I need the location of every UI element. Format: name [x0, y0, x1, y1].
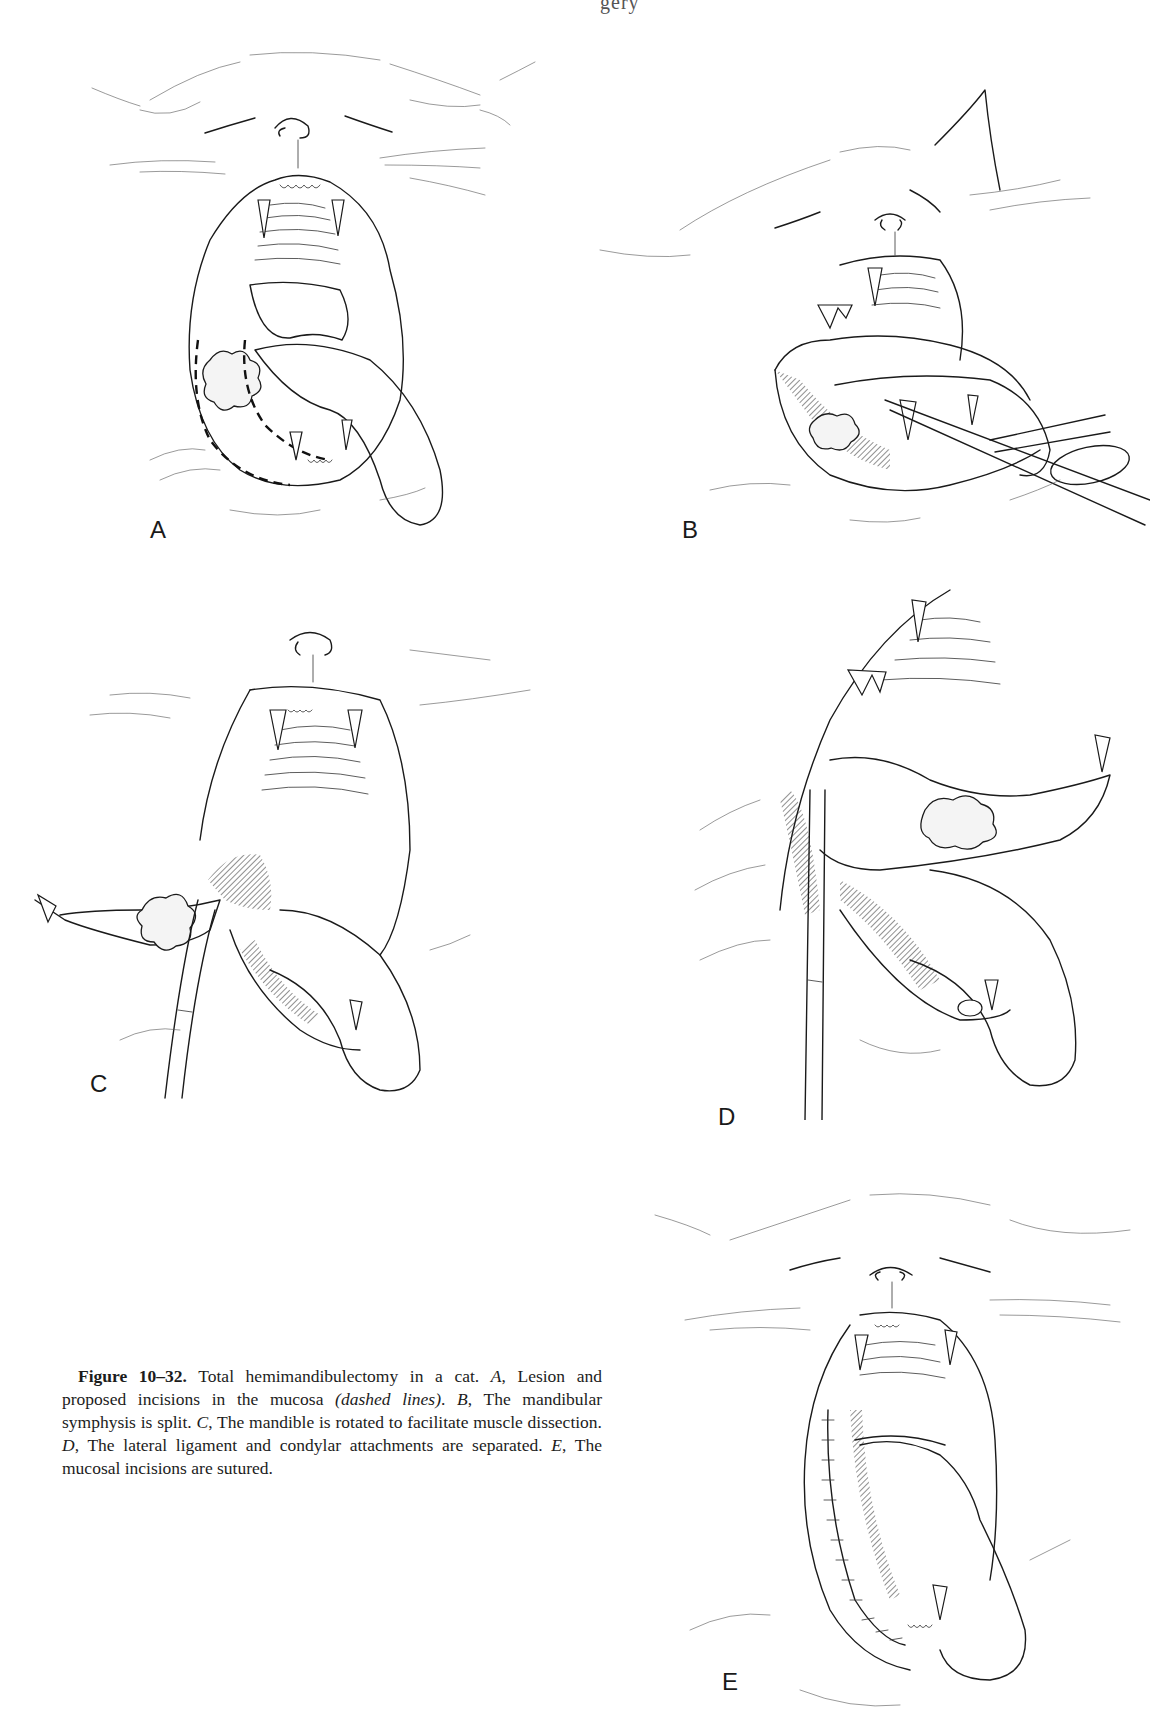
figure-caption: Figure 10–32. Total hemimandibulectomy i…	[62, 1365, 602, 1480]
caption-paragraph: Figure 10–32. Total hemimandibulectomy i…	[62, 1365, 602, 1480]
figure-panel-a: A	[80, 40, 560, 540]
panel-label-c: C	[90, 1072, 107, 1096]
symphysis-split-illustration	[590, 80, 1150, 540]
panel-label-e: E	[722, 1670, 738, 1694]
panel-label-a: A	[150, 518, 166, 542]
panel-label-d: D	[718, 1105, 735, 1129]
figure-number: Figure 10–32.	[78, 1366, 187, 1386]
ligament-separation-illustration	[680, 580, 1140, 1120]
figure-panel-d: D	[680, 580, 1140, 1120]
figure-panel-e: E	[650, 1180, 1150, 1723]
mandible-rotated-illustration	[30, 610, 590, 1100]
sutured-incision-illustration	[650, 1180, 1150, 1723]
figure-panel-b: B	[590, 80, 1150, 540]
running-header: gery	[600, 0, 640, 14]
panel-label-b: B	[682, 518, 698, 542]
figure-panel-c: C	[30, 610, 590, 1100]
cat-mouth-lesion-illustration	[80, 40, 560, 540]
